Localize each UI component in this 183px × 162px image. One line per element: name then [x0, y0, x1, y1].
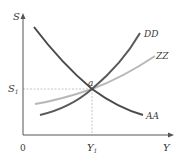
y-axis-arrow-icon: [21, 13, 26, 19]
y1-label: Y1: [87, 142, 97, 154]
origin-label: 0: [20, 143, 26, 153]
x-axis-label: Y: [163, 142, 171, 153]
s1-label: S1: [8, 83, 19, 95]
y-axis-label: S: [13, 11, 20, 22]
x-axis-arrow-icon: [168, 133, 174, 138]
aa-label: AA: [145, 111, 159, 121]
zz-curve: [35, 56, 155, 104]
zz-label: ZZ: [155, 51, 169, 61]
dd-label: DD: [143, 29, 158, 39]
equilibrium-point-label: a: [88, 78, 93, 88]
dd-aa-zz-diagram: S Y 0 S1 Y1 a DD ZZ AA: [0, 0, 183, 162]
